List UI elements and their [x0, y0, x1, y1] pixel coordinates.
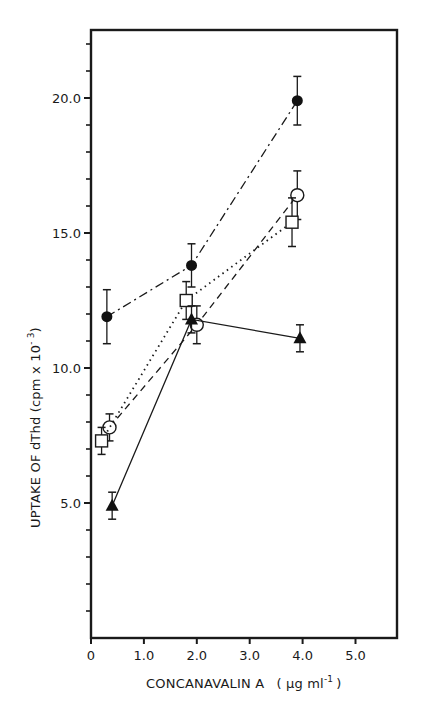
y-axis-label-exponent: - 3 [26, 332, 36, 344]
filled-triangle-marker [106, 499, 119, 511]
x-axis-ticks: 01.02.03.04.05.0 [87, 638, 366, 663]
series-open-circle [103, 171, 304, 441]
y-axis-label: UPTAKE OF dThd (cpm x 10- 3) [26, 327, 43, 528]
filled-circle-marker [292, 95, 303, 106]
filled-circle-marker [101, 311, 112, 322]
x-tick-label: 1.0 [134, 648, 155, 663]
series-line [110, 195, 298, 427]
x-axis-label: CONCANAVALIN A( µg ml-1) [146, 674, 342, 691]
x-tick-label: 2.0 [186, 648, 207, 663]
series-line [112, 319, 300, 505]
y-tick-label: 20.0 [52, 91, 81, 106]
x-tick-label: 4.0 [292, 648, 313, 663]
plot-border [91, 30, 397, 638]
y-tick-label: 15.0 [52, 226, 81, 241]
y-axis-ticks: 5.010.015.020.0 [52, 44, 91, 611]
x-tick-label: 5.0 [345, 648, 366, 663]
plot-frame [91, 30, 397, 638]
open-square-marker [96, 435, 108, 447]
open-circle-marker [291, 189, 304, 202]
filled-circle-marker [186, 260, 197, 271]
x-tick-label: 3.0 [239, 648, 260, 663]
y-tick-label: 10.0 [52, 361, 81, 376]
open-square-marker [286, 216, 298, 228]
data-series [96, 76, 307, 519]
chart: 5.010.015.020.0 01.02.03.04.05.0 UPTAKE … [0, 0, 446, 720]
series-filled-triangle [106, 306, 307, 519]
x-axis-label-exponent: -1 [324, 674, 333, 684]
y-tick-label: 5.0 [60, 496, 81, 511]
x-tick-label: 0 [87, 648, 95, 663]
series-filled-circle [101, 76, 302, 343]
series-line [107, 101, 297, 317]
open-square-marker [180, 295, 192, 307]
